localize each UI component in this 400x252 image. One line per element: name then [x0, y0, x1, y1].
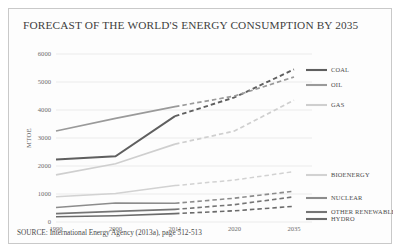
- legend-label: NUCLEAR: [331, 194, 363, 201]
- y-tick-label: 3000: [38, 134, 52, 141]
- series-line-historical: [56, 203, 175, 207]
- series-line-historical: [56, 209, 175, 213]
- x-tick-label: 2020: [228, 225, 242, 232]
- series-line-forecast: [175, 172, 294, 186]
- legend-label: HYDRO: [331, 215, 355, 222]
- legend-label: GAS: [331, 101, 345, 108]
- energy-consumption-line-chart: 0100020003000400050006000 19902000201120…: [9, 9, 393, 245]
- series-line-forecast: [175, 77, 294, 107]
- series-line-historical: [56, 186, 175, 197]
- x-tick-label: 2035: [287, 225, 301, 232]
- legend-label: BIOENERGY: [331, 171, 370, 178]
- legend-label: COAL: [331, 66, 349, 73]
- y-axis-title: MTOE: [25, 128, 32, 148]
- series-line-historical: [56, 214, 175, 217]
- series-line-historical: [56, 144, 175, 175]
- data-series-group: [56, 69, 294, 216]
- y-tick-label: 5000: [38, 78, 52, 85]
- series-line-forecast: [175, 191, 294, 203]
- y-axis-tick-labels: 0100020003000400050006000: [38, 50, 52, 225]
- source-note: SOURCE: International Energy Agency (201…: [17, 228, 202, 237]
- series-line-forecast: [175, 100, 294, 144]
- y-axis-title-text: MTOE: [25, 128, 32, 148]
- y-tick-label: 6000: [38, 50, 52, 57]
- legend-label: OIL: [331, 81, 342, 88]
- y-tick-label: 1000: [38, 190, 52, 197]
- y-tick-label: 2000: [38, 162, 52, 169]
- chart-figure: FORECAST OF THE WORLD'S ENERGY CONSUMPTI…: [8, 8, 392, 244]
- legend-label: OTHER RENEWABLE: [331, 208, 393, 215]
- chart-legend: COALOILGASBIOENERGYNUCLEAROTHER RENEWABL…: [306, 66, 393, 222]
- y-tick-label: 4000: [38, 106, 52, 113]
